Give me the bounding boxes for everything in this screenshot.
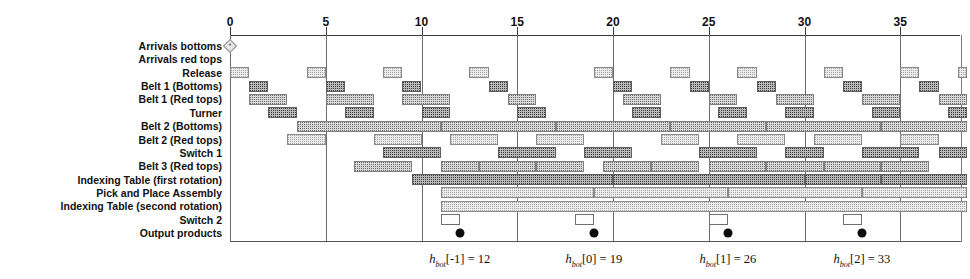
gantt-bar (709, 94, 738, 105)
gantt-bar (881, 174, 967, 185)
gantt-bar (422, 107, 451, 118)
gridline-5 (326, 35, 327, 241)
gantt-plot-area: 05101520253035 hbot[-1] = 12hbot[0] = 19… (226, 0, 970, 279)
gantt-bar (919, 81, 938, 92)
output-product-dot (455, 229, 464, 238)
row-label-arrivals-red-tops: Arrivals red tops (139, 54, 222, 65)
row-label-belt-3-red-tops: Belt 3 (Red tops) (139, 161, 222, 172)
row-label-belt-2-bottoms: Belt 2 (Bottoms) (141, 121, 222, 132)
gantt-bar (757, 81, 776, 92)
gantt-bar (613, 81, 632, 92)
gantt-bar (814, 134, 862, 145)
gantt-bar (766, 121, 881, 132)
gantt-bar (498, 147, 555, 158)
gantt-bar (670, 121, 766, 132)
row-label-pick-and-place-assembly: Pick and Place Assembly (96, 187, 222, 198)
gantt-bar (709, 214, 728, 225)
gantt-bar (450, 134, 498, 145)
gantt-bar (843, 214, 862, 225)
gantt-bar (594, 187, 728, 198)
gantt-bar (374, 134, 422, 145)
row-label-belt-1-red-tops: Belt 1 (Red tops) (139, 94, 222, 105)
gantt-bar (939, 147, 968, 158)
row-label-switch-2: Switch 2 (179, 214, 222, 225)
gantt-bar (441, 121, 556, 132)
gantt-bar (670, 67, 689, 78)
row-label-belt-2-red-tops: Belt 2 (Red tops) (139, 134, 222, 145)
gantt-bar (249, 94, 287, 105)
gantt-bar (402, 81, 421, 92)
gantt-bar (805, 174, 882, 185)
gantt-bar (584, 147, 632, 158)
gantt-bar (326, 94, 374, 105)
gantt-bar (881, 161, 929, 172)
row-label-release: Release (182, 67, 222, 78)
row-label-arrivals-bottoms: Arrivals bottoms (139, 41, 222, 52)
gantt-bar (441, 214, 460, 225)
gantt-bar (824, 67, 843, 78)
gantt-bar (862, 94, 900, 105)
gantt-bar (699, 147, 756, 158)
gantt-bar (623, 94, 661, 105)
gantt-bar (776, 94, 814, 105)
gantt-bar (354, 161, 411, 172)
output-product-dot (857, 229, 866, 238)
gantt-bar (900, 67, 919, 78)
gantt-bar (872, 107, 901, 118)
annotation-h-bot: hbot[1] = 26 (699, 252, 756, 269)
gridline-10 (422, 35, 423, 241)
gantt-bar (287, 134, 325, 145)
gantt-bar (766, 161, 823, 172)
gantt-bar (728, 187, 862, 198)
gantt-bar (383, 67, 402, 78)
gantt-bar (718, 107, 747, 118)
gantt-bar (632, 107, 661, 118)
gantt-bar (469, 67, 488, 78)
gantt-bar (249, 81, 268, 92)
row-label-indexing-table-first-rotation: Indexing Table (first rotation) (78, 174, 222, 185)
row-label-turner: Turner (190, 107, 222, 118)
row-label-output-products: Output products (140, 228, 222, 239)
x-axis-line (230, 35, 960, 36)
gantt-bar (603, 161, 651, 172)
gantt-bar (958, 67, 968, 78)
gantt-bar (383, 147, 440, 158)
gantt-bar (881, 121, 967, 132)
gantt-bar (536, 161, 584, 172)
gantt-bar (575, 214, 594, 225)
gantt-bar (517, 107, 546, 118)
gantt-bar (948, 107, 967, 118)
gantt-bar (412, 174, 613, 185)
gantt-chart-figure: Arrivals bottomsArrivals red topsRelease… (0, 0, 970, 279)
annotation-h-bot: hbot[-1] = 12 (429, 252, 490, 269)
gantt-bar (536, 134, 584, 145)
gantt-bar (661, 134, 699, 145)
gantt-bar (709, 161, 766, 172)
gantt-bar (613, 174, 805, 185)
gantt-bar (268, 107, 297, 118)
gantt-bar (297, 121, 441, 132)
gantt-bar (307, 67, 326, 78)
row-label-switch-1: Switch 1 (179, 147, 222, 158)
annotation-h-bot: hbot[2] = 33 (834, 252, 891, 269)
plot-baseline (230, 241, 960, 242)
gantt-bar (594, 67, 613, 78)
gantt-bar (345, 107, 374, 118)
row-label-belt-1-bottoms: Belt 1 (Bottoms) (141, 81, 222, 92)
row-label-indexing-table-second-rotation: Indexing Table (second rotation) (61, 201, 222, 212)
gantt-bar (441, 187, 594, 198)
gantt-bar (939, 94, 968, 105)
gantt-bar (441, 201, 968, 212)
gantt-bar (556, 121, 671, 132)
gantt-bar (900, 134, 938, 145)
gantt-bar (843, 81, 862, 92)
gantt-bar (785, 107, 814, 118)
gridline-0 (230, 35, 231, 241)
gantt-bar (862, 147, 919, 158)
gantt-bar (785, 147, 823, 158)
gantt-bar (737, 134, 785, 145)
gantt-bar (651, 161, 699, 172)
gantt-bar (862, 187, 967, 198)
row-label-column: Arrivals bottomsArrivals red topsRelease… (0, 0, 226, 279)
output-product-dot (589, 229, 598, 238)
